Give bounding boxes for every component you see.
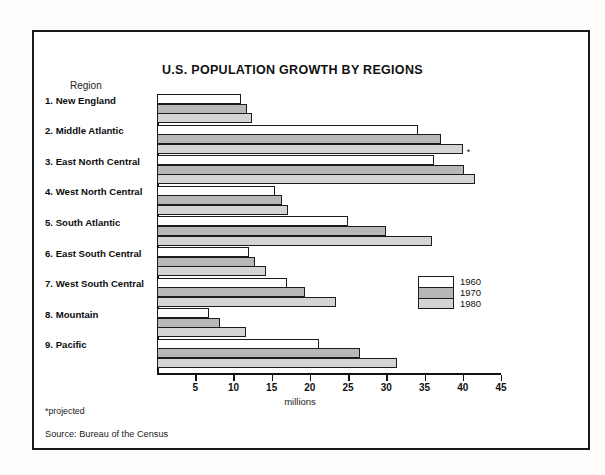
bar-4-1980 [157,205,288,215]
legend-swatch-1980 [418,298,454,309]
axis-tick-25 [348,375,349,381]
legend-swatch-1960 [418,276,454,287]
category-label-7: 7. West South Central [45,278,155,289]
projected-asterisk-annotation: * [467,148,471,156]
bar-8-1980 [157,327,246,337]
axis-tick-label-5: 5 [192,382,198,393]
axis-tick-10 [233,375,234,381]
legend-swatch-1970 [418,287,454,298]
legend: 196019701980 [418,276,481,309]
category-label-1: 1. New England [45,95,155,106]
axis-tick-label-25: 25 [343,382,354,393]
bar-7-1960 [157,278,287,288]
bar-7-1980 [157,297,336,307]
category-label-9: 9. Pacific [45,339,155,350]
bar-2-1960 [157,125,418,135]
bar-4-1970 [157,195,282,205]
axis-tick-label-10: 10 [228,382,239,393]
axis-tick-label-15: 15 [266,382,277,393]
bar-5-1960 [157,216,348,226]
category-label-3: 3. East North Central [45,156,155,167]
axis-tick-label-45: 45 [495,382,506,393]
bar-3-1980 [157,174,475,184]
footnote-projected: *projected [45,406,85,416]
category-axis-header: Region [70,80,102,91]
bar-3-1970 [157,165,464,175]
axis-tick-45 [501,375,502,381]
bar-5-1980 [157,236,432,246]
bar-6-1970 [157,257,255,267]
axis-tick-40 [463,375,464,381]
bar-1-1960 [157,94,241,104]
bar-9-1970 [157,348,360,358]
category-label-4: 4. West North Central [45,186,155,197]
bar-1-1980 [157,113,252,123]
legend-label-1970: 1970 [460,287,481,298]
legend-entry-1970: 1970 [418,287,481,298]
bar-2-1970 [157,134,441,144]
bar-6-1980 [157,266,266,276]
legend-entry-1980: 1980 [418,298,481,309]
axis-tick-label-20: 20 [304,382,315,393]
bar-8-1960 [157,308,209,318]
category-axis-line [157,373,501,375]
category-label-5: 5. South Atlantic [45,217,155,228]
bar-6-1960 [157,247,249,257]
legend-entry-1960: 1960 [418,276,481,287]
axis-tick-label-30: 30 [381,382,392,393]
chart-page: U.S. POPULATION GROWTH BY REGIONS Region… [0,0,605,475]
bar-3-1960 [157,155,434,165]
x-axis-label: millions [284,396,316,407]
legend-label-1980: 1980 [460,298,481,309]
legend-label-1960: 1960 [460,276,481,287]
axis-tick-label-40: 40 [457,382,468,393]
page-title: U.S. POPULATION GROWTH BY REGIONS [162,63,423,77]
axis-tick-30 [386,375,387,381]
bar-2-1980 [157,144,463,154]
bar-9-1980 [157,358,397,368]
axis-tick-20 [310,375,311,381]
category-label-6: 6. East South Central [45,248,155,259]
bar-5-1970 [157,226,386,236]
bar-7-1970 [157,287,305,297]
category-label-2: 2. Middle Atlantic [45,125,155,136]
bar-9-1960 [157,339,319,349]
axis-tick-35 [425,375,426,381]
footnote-source: Source: Bureau of the Census [45,429,168,439]
axis-tick-15 [272,375,273,381]
bar-8-1970 [157,318,220,328]
bar-4-1960 [157,186,275,196]
axis-tick-5 [195,375,196,381]
axis-tick-label-35: 35 [419,382,430,393]
category-label-8: 8. Mountain [45,309,155,320]
bar-1-1970 [157,104,247,114]
